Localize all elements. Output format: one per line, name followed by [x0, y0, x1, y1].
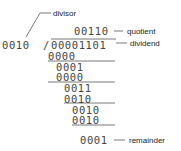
remainder-value: 0001	[80, 135, 108, 146]
quotient-label: quotient	[127, 27, 155, 36]
dividend-label: dividend	[130, 39, 160, 48]
divisor-value: 0010	[2, 40, 30, 51]
step-6: 0010	[72, 115, 100, 126]
remainder-label: remainder	[129, 136, 165, 145]
quotient-value: 00110	[74, 26, 109, 37]
long-division-diagram: divisor quotient dividend remainder 0011…	[0, 0, 181, 151]
divisor-label: divisor	[53, 9, 76, 18]
diagram-lines	[0, 0, 181, 151]
